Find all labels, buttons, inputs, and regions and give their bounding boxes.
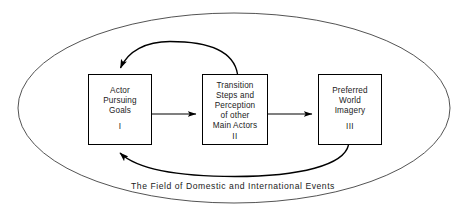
feedback-arrow-box3-to-box1 xyxy=(120,145,349,177)
box-3-rect xyxy=(319,75,382,145)
diagram-canvas: Actor Pursuing Goals I Transition Steps … xyxy=(0,0,466,216)
box-2-rect xyxy=(203,75,268,145)
feedback-arrow-box2-to-box1 xyxy=(121,42,238,75)
box-1-rect xyxy=(89,75,152,145)
field-caption: The Field of Domestic and International … xyxy=(0,181,466,192)
